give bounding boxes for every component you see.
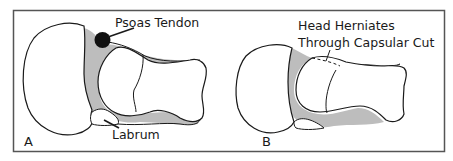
herniation-label-line2: Through Capsular Cut <box>297 35 434 50</box>
labrum-label: Labrum <box>112 127 160 142</box>
hip-diagram: Psoas Tendon Labrum A Head Herniates Thr… <box>0 0 453 161</box>
panel-letter-b: B <box>262 134 271 149</box>
acetabulum-b <box>236 45 294 133</box>
herniation-label-line1: Head Herniates <box>298 18 395 33</box>
acetabulum-a <box>23 23 92 135</box>
panel-letter-a: A <box>24 134 33 149</box>
psoas-tendon-icon <box>95 32 111 48</box>
psoas-tendon-label: Psoas Tendon <box>115 15 199 30</box>
